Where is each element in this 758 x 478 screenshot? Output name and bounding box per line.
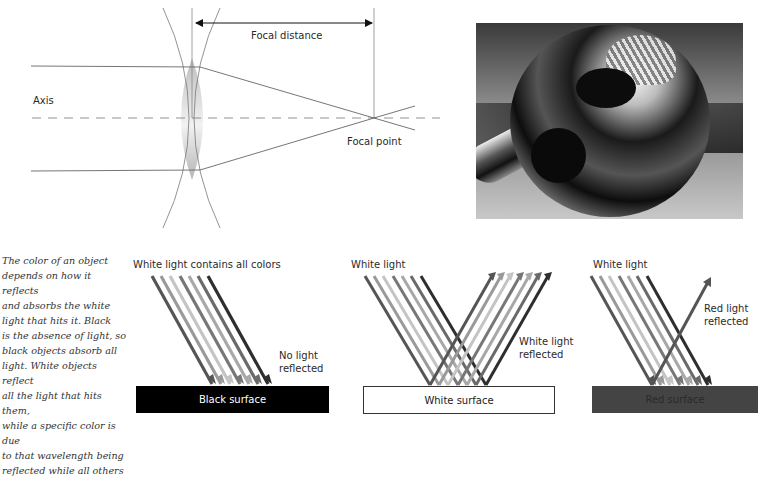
- surface-label: White surface: [424, 395, 493, 406]
- focal-distance-label: Focal distance: [251, 30, 322, 41]
- caption-line: light. White objects reflect: [2, 358, 130, 388]
- caption-line: black objects absorb all: [2, 343, 130, 358]
- caption-line: to that wavelength being: [2, 448, 130, 463]
- caption-line: while a specific color is due: [2, 418, 130, 448]
- axis-label: Axis: [33, 95, 54, 106]
- surface-label: Red surface: [645, 394, 704, 405]
- incoming-reflected-rays-white: [345, 250, 565, 390]
- caption-line: is the absence of light, so: [2, 328, 130, 343]
- caption-line: all the light that hits them,: [2, 388, 130, 418]
- caption-line: depends on how it reflects: [2, 268, 130, 298]
- black-surface: Black surface: [136, 386, 329, 413]
- caption-line: and absorbs the white: [2, 298, 130, 313]
- caption-line: reflected while all others: [2, 463, 130, 478]
- white-surface: White surface: [363, 386, 555, 414]
- chrome-sphere-photo: [476, 23, 743, 219]
- color-explanation-caption: The color of an object depends on how it…: [2, 253, 130, 478]
- red-light-reflected-note: Red light reflected: [704, 302, 748, 328]
- caption-line: light that hits it. Black: [2, 313, 130, 328]
- surface-label: Black surface: [199, 394, 266, 405]
- no-light-reflected-note: No light reflected: [279, 349, 323, 375]
- focal-point-label: Focal point: [347, 136, 402, 147]
- red-surface: Red surface: [592, 386, 758, 413]
- lens-diagram-graphic: [0, 0, 450, 230]
- caption-line: The color of an object: [2, 253, 130, 268]
